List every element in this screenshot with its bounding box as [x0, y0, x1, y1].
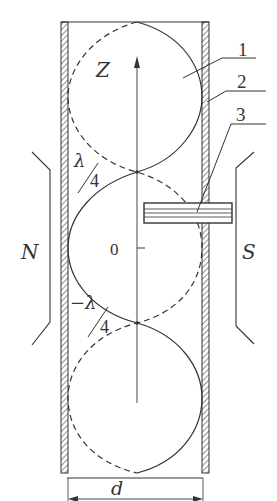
lower-node-label-num: −λ: [70, 294, 97, 312]
pole-label-s: S: [242, 242, 256, 262]
width-dimension: [67, 478, 203, 501]
z-axis: [134, 56, 145, 403]
waveguide-walls: [61, 22, 209, 473]
dimension-arrow-right-icon: [193, 496, 203, 501]
wave-dashed-curve: [68, 22, 202, 473]
lower-node: [135, 321, 139, 325]
callout-leaders: [183, 58, 266, 212]
waveguide-diagram: [0, 0, 277, 501]
width-label-d: d: [111, 479, 123, 498]
dimension-arrow-left-icon: [68, 496, 78, 501]
sample-plate: [144, 203, 232, 223]
pole-label-n: N: [21, 242, 39, 262]
upper-node-label-den: 4: [90, 172, 99, 190]
lower-node-label-den: 4: [100, 318, 109, 336]
callout-3: 3: [236, 105, 246, 124]
axis-label-z: Z: [96, 60, 110, 80]
origin-label: 0: [110, 241, 119, 258]
upper-node: [135, 170, 139, 174]
upper-node-label-num: λ: [74, 152, 85, 170]
callout-1: 1: [238, 40, 248, 59]
right-wall: [202, 22, 209, 473]
callout-2: 2: [237, 72, 247, 91]
axis-arrow-icon: [134, 56, 140, 68]
left-wall: [61, 22, 68, 473]
wave-solid-curve: [68, 22, 202, 473]
